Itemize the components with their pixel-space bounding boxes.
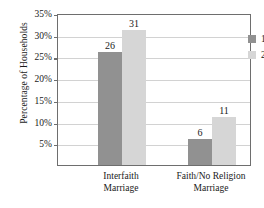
chart-legend: 19882008 bbox=[248, 32, 264, 64]
y-axis-tick-label: 20% bbox=[35, 74, 52, 84]
legend-label: 1988 bbox=[261, 34, 264, 44]
y-axis-tick bbox=[54, 102, 58, 103]
y-axis-tick-label: 25% bbox=[35, 52, 52, 62]
legend-item: 2008 bbox=[248, 48, 264, 61]
bar bbox=[98, 52, 122, 165]
legend-item: 1988 bbox=[248, 32, 264, 45]
y-axis-tick bbox=[54, 37, 58, 38]
y-axis-tick bbox=[54, 145, 58, 146]
y-axis-tick-label: 30% bbox=[35, 31, 52, 41]
gridline bbox=[58, 80, 250, 81]
gridline bbox=[58, 37, 250, 38]
legend-swatch bbox=[248, 35, 256, 43]
legend-swatch bbox=[248, 51, 256, 59]
bar-value-label: 11 bbox=[212, 105, 236, 116]
bar-value-label: 6 bbox=[188, 127, 212, 138]
x-axis-category-label-line: Interfaith bbox=[103, 171, 138, 181]
x-axis-category-label: Faith/No ReligionMarriage bbox=[156, 170, 264, 194]
x-axis-category-label-line: Marriage bbox=[156, 182, 264, 194]
bar bbox=[212, 117, 236, 165]
gridline bbox=[58, 102, 250, 103]
bar-value-label: 26 bbox=[98, 40, 122, 51]
y-axis-tick-label: 10% bbox=[35, 118, 52, 128]
legend-label: 2008 bbox=[261, 50, 264, 60]
bar-value-label: 31 bbox=[122, 18, 146, 29]
x-axis-category-label-line: Faith/No Religion bbox=[177, 171, 246, 181]
y-axis-tick bbox=[54, 124, 58, 125]
y-axis-tick bbox=[54, 15, 58, 16]
y-axis-tick bbox=[54, 80, 58, 81]
gridline bbox=[58, 58, 250, 59]
bar bbox=[122, 30, 146, 165]
y-axis-tick-label: 15% bbox=[35, 96, 52, 106]
y-axis-tick-label: 35% bbox=[35, 9, 52, 19]
y-axis-tick-label: 5% bbox=[39, 139, 52, 149]
y-axis-tick bbox=[54, 58, 58, 59]
bar bbox=[188, 139, 212, 165]
bar-chart: Percentage of Households 5%10%15%20%25%3… bbox=[0, 0, 264, 208]
y-axis-tick-labels: 5%10%15%20%25%30%35% bbox=[10, 14, 52, 166]
plot-area: 2631611 19882008 bbox=[57, 14, 251, 166]
